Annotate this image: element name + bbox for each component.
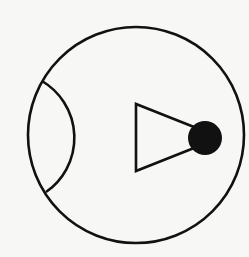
diagram-canvas: [0, 0, 249, 257]
filled-dot: [188, 121, 222, 155]
inner-arc: [42, 81, 74, 192]
circle-symbol-diagram: [0, 0, 249, 257]
triangle-shape: [136, 104, 194, 171]
